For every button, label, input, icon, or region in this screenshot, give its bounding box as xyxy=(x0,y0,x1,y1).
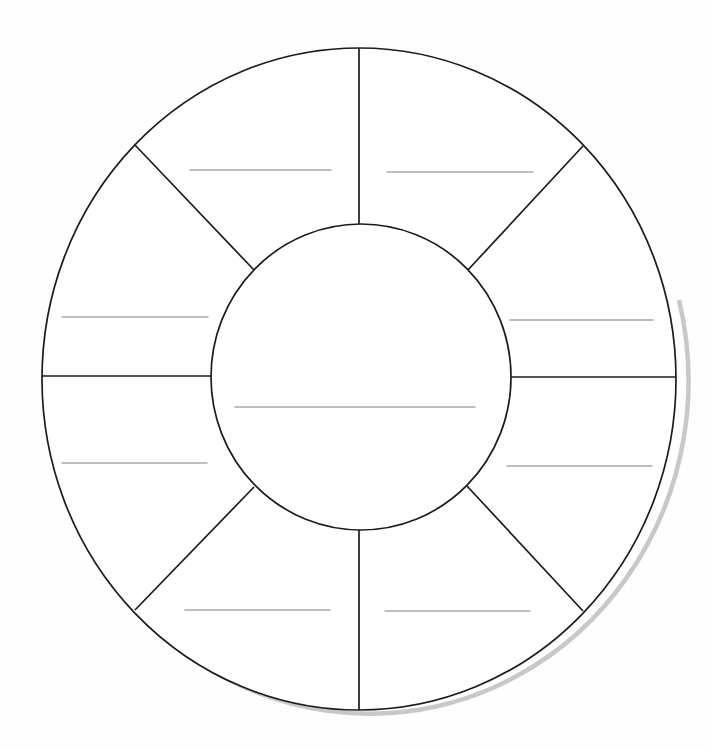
wheel-diagram[interactable] xyxy=(0,0,711,750)
center-hub-circle[interactable] xyxy=(211,224,511,530)
worksheet-page xyxy=(0,0,711,750)
